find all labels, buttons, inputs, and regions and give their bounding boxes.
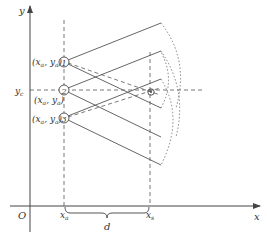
sensor-2-coord: (xa, ya) (34, 95, 65, 106)
sensor-3-coord: (xa, ya) (32, 114, 63, 125)
sensor-geometry-diagram: 1 2 3 (xa, ya) (xa, ya) (xa, ya) y x O y… (0, 0, 267, 236)
svg-text:3: 3 (61, 115, 66, 124)
distance-label: d (104, 221, 110, 232)
distance-brace (65, 207, 149, 218)
wavefront-arcs (161, 23, 181, 165)
y-axis-label: y (18, 5, 25, 16)
xa-label: xa (60, 210, 69, 221)
yc-label: yc (14, 86, 24, 97)
beam-lines (68, 23, 161, 165)
svg-text:1: 1 (61, 59, 66, 68)
origin-label: O (18, 210, 26, 221)
x-axis-label: x (254, 211, 260, 222)
sensor-2: 2 (59, 85, 69, 96)
sensor-1-coord: (xa, ya) (32, 57, 63, 68)
